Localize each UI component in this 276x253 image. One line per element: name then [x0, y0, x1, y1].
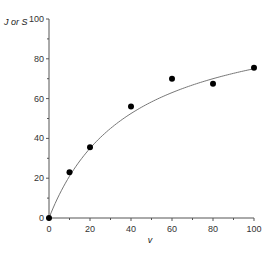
x-tick-label: 60	[167, 224, 177, 234]
data-point	[87, 144, 93, 150]
chart: 020406080100020406080100 J or S v	[0, 0, 276, 253]
y-tick-label: 80	[34, 54, 44, 64]
data-point	[169, 76, 175, 82]
x-tick-label: 0	[46, 224, 51, 234]
fitted-curve	[49, 69, 254, 218]
y-tick-label: 60	[34, 94, 44, 104]
data-point	[67, 169, 73, 175]
axes: 020406080100020406080100	[29, 14, 262, 234]
data-point	[210, 81, 216, 87]
y-tick-label: 0	[39, 213, 44, 223]
data-point	[128, 104, 134, 110]
x-tick-label: 80	[208, 224, 218, 234]
y-axis-label: J or S	[3, 17, 28, 27]
fit-curve-path	[49, 69, 254, 218]
y-tick-label: 20	[34, 173, 44, 183]
y-tick-label: 100	[29, 14, 44, 24]
data-point	[251, 65, 257, 71]
data-point	[46, 215, 52, 221]
x-axis-label: v	[148, 235, 153, 245]
data-points	[46, 65, 257, 221]
x-tick-label: 40	[126, 224, 136, 234]
y-tick-label: 40	[34, 133, 44, 143]
x-tick-label: 100	[246, 224, 261, 234]
x-tick-label: 20	[85, 224, 95, 234]
